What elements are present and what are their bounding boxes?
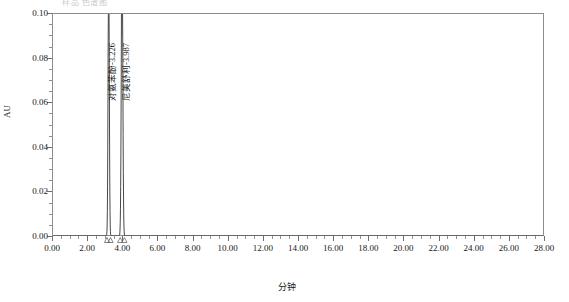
x-axis-minor-tick [78,236,79,239]
x-axis-tick [298,236,299,241]
x-axis-minor-tick [105,236,106,239]
x-axis-tick-label: 12.00 [253,243,273,253]
peak-integration-marker [108,238,113,243]
x-axis-tick [368,236,369,241]
x-axis-minor-tick [149,236,150,239]
x-axis-tick-label: 28.00 [534,243,554,253]
x-axis-tick-label: 16.00 [323,243,343,253]
x-axis-minor-tick [289,236,290,239]
y-axis-tick-label: 0.02 [4,186,48,196]
x-axis-minor-tick [131,236,132,239]
y-axis-labels: 0.000.020.040.060.080.10 [0,0,48,302]
x-axis-minor-tick [219,236,220,239]
x-axis-tick-label: 6.00 [150,243,166,253]
x-axis-minor-tick [351,236,352,239]
peak-label: 对氨苯酚-3.226 [105,43,117,101]
x-axis-tick [333,236,334,241]
x-axis-minor-tick [254,236,255,239]
x-axis-minor-tick [114,236,115,239]
x-axis-tick-label: 20.00 [393,243,413,253]
x-axis-minor-tick [465,236,466,239]
y-axis-tick-label: 0.06 [4,97,48,107]
x-axis-tick [122,236,123,241]
x-axis-tick-label: 26.00 [499,243,519,253]
peak-label: 尼美舒利-3.987 [119,43,131,101]
x-axis-tick-label: 22.00 [428,243,448,253]
x-axis-minor-tick [272,236,273,239]
y-axis-tick-label: 0.04 [4,142,48,152]
x-axis-minor-tick [140,236,141,239]
x-axis-tick [228,236,229,241]
x-axis-tick-label: 10.00 [218,243,238,253]
x-axis-tick [52,236,53,241]
x-axis-tick [87,236,88,241]
x-axis-minor-tick [395,236,396,239]
x-axis-minor-tick [61,236,62,239]
x-axis-minor-tick [447,236,448,239]
x-axis-minor-tick [491,236,492,239]
x-axis-minor-tick [360,236,361,239]
x-axis-tick [263,236,264,241]
x-axis-minor-tick [175,236,176,239]
x-axis-minor-tick [184,236,185,239]
x-axis-minor-tick [412,236,413,239]
x-axis-tick-label: 24.00 [464,243,484,253]
x-axis-tick-label: 0.00 [44,243,60,253]
x-axis-tick [509,236,510,241]
x-axis-minor-tick [483,236,484,239]
x-axis-tick-label: 2.00 [79,243,95,253]
x-axis-minor-tick [342,236,343,239]
y-axis-tick-label: 0.00 [4,231,48,241]
x-axis-minor-tick [500,236,501,239]
y-axis-tick-label: 0.08 [4,53,48,63]
x-axis-minor-tick [201,236,202,239]
x-axis-minor-tick [535,236,536,239]
x-axis-minor-tick [386,236,387,239]
x-axis-tick-label: 4.00 [114,243,130,253]
x-axis-minor-tick [377,236,378,239]
header-note: 样品 色谱图 [62,0,107,7]
x-axis-tick [193,236,194,241]
x-axis-minor-tick [70,236,71,239]
x-axis-minor-tick [456,236,457,239]
x-axis-tick [439,236,440,241]
x-axis-minor-tick [237,236,238,239]
x-axis-minor-tick [526,236,527,239]
x-axis-tick [544,236,545,241]
x-axis-tick-label: 8.00 [185,243,201,253]
x-axis-minor-tick [210,236,211,239]
x-axis-minor-tick [316,236,317,239]
x-axis-tick-label: 14.00 [288,243,308,253]
chromatogram-view: 样品 色谱图 AU 0.000.020.040.060.080.10 0.002… [0,0,569,302]
x-axis-minor-tick [166,236,167,239]
x-axis-minor-tick [96,236,97,239]
x-axis-minor-tick [421,236,422,239]
x-axis-tick [157,236,158,241]
x-axis-title: 分钟 [278,280,296,293]
x-axis-minor-tick [518,236,519,239]
x-axis-tick [403,236,404,241]
x-axis-tick-label: 18.00 [358,243,378,253]
x-axis-minor-tick [280,236,281,239]
x-axis-minor-tick [324,236,325,239]
x-axis-minor-tick [307,236,308,239]
y-axis-tick-label: 0.10 [4,8,48,18]
x-axis-minor-tick [245,236,246,239]
x-axis-tick [474,236,475,241]
x-axis-minor-tick [430,236,431,239]
